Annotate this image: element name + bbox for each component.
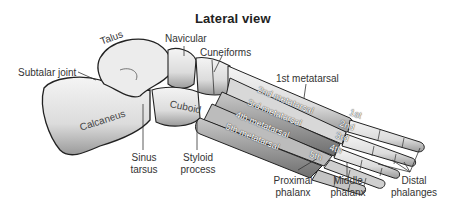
label-cuneiforms: Cuneiforms: [200, 47, 251, 59]
label-proximal-phalanx-line1: Proximal: [270, 175, 316, 187]
label-distal-phalanges: Distal phalanges: [388, 175, 440, 199]
label-styloid-process-line1: Styloid: [178, 152, 218, 164]
label-1st-metatarsal: 1st metatarsal: [276, 73, 339, 85]
label-proximal-phalanx: Proximal phalanx: [270, 175, 316, 199]
label-middle-phalanx-line1: Middle: [328, 175, 368, 187]
navicular-bone: [168, 48, 196, 88]
label-distal-phalanges-line2: phalanges: [388, 187, 440, 199]
label-subtalar-joint: Subtalar joint: [18, 67, 76, 79]
foot-skeleton-illustration: [0, 0, 452, 203]
label-navicular: Navicular: [165, 33, 207, 45]
label-middle-phalanx: Middle phalanx: [328, 175, 368, 199]
label-styloid-process-line2: process: [178, 164, 218, 176]
label-distal-phalanges-line1: Distal: [388, 175, 440, 187]
label-sinus-tarsus: Sinus tarsus: [128, 152, 160, 176]
leader-1st-metatarsal: [304, 84, 306, 98]
diagram-title: Lateral view: [195, 11, 271, 26]
label-styloid-process: Styloid process: [178, 152, 218, 176]
label-sinus-tarsus-line1: Sinus: [128, 152, 160, 164]
label-proximal-phalanx-line2: phalanx: [270, 187, 316, 199]
label-middle-phalanx-line2: phalanx: [328, 187, 368, 199]
label-sinus-tarsus-line2: tarsus: [128, 164, 160, 176]
